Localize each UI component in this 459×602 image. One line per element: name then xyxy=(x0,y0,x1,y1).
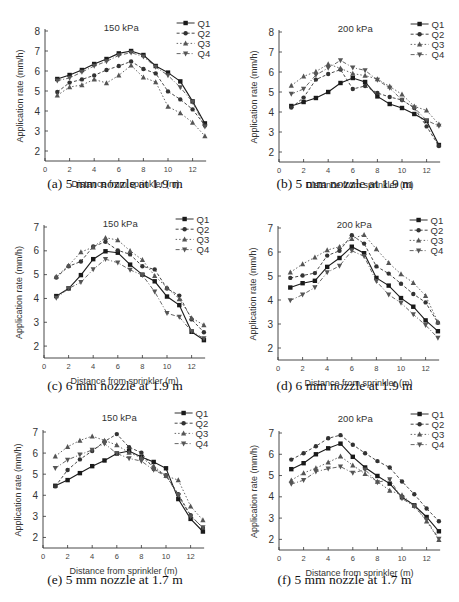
x-tick-label: 0 xyxy=(41,552,45,561)
data-point-marker xyxy=(312,285,317,290)
data-point-marker xyxy=(91,267,96,272)
data-point-marker xyxy=(153,279,157,283)
data-point-marker xyxy=(314,77,318,81)
data-point-marker xyxy=(375,91,379,95)
data-point-marker xyxy=(129,63,134,68)
y-tick-label: 4 xyxy=(268,107,274,118)
legend-marker-q1 xyxy=(183,21,187,25)
data-point-marker xyxy=(289,467,293,471)
x-tick-label: 2 xyxy=(301,364,305,373)
y-tick-label: 6 xyxy=(32,448,38,459)
data-point-marker xyxy=(325,253,329,257)
data-point-marker xyxy=(314,444,318,448)
data-point-marker xyxy=(103,240,107,244)
data-point-marker xyxy=(399,281,403,285)
data-point-marker xyxy=(363,68,368,73)
data-point-marker xyxy=(128,248,133,253)
y-axis-label: Application rate (mm/h) xyxy=(248,247,258,340)
x-tick-label: 2 xyxy=(302,166,306,175)
data-point-marker xyxy=(102,458,106,462)
data-point-marker xyxy=(116,248,120,252)
line-chart-c: 234567024681012Distance from sprinkler (… xyxy=(0,195,230,380)
data-point-marker xyxy=(411,292,415,296)
x-tick-label: 4 xyxy=(92,165,96,174)
y-tick-label: 3 xyxy=(33,317,39,328)
series-q1 xyxy=(53,449,205,534)
data-point-marker xyxy=(139,450,143,454)
data-point-marker xyxy=(67,84,72,89)
data-point-marker xyxy=(350,463,355,468)
y-axis-label: Application rate (mm/h) xyxy=(14,246,24,339)
y-axis-label: Application rate (mm/h) xyxy=(15,49,25,142)
data-point-marker xyxy=(301,95,305,99)
data-point-marker xyxy=(166,89,170,93)
data-point-marker xyxy=(90,433,95,438)
x-tick-label: 4 xyxy=(326,554,330,563)
data-point-marker xyxy=(55,93,60,98)
series-q2 xyxy=(53,432,205,530)
data-point-marker xyxy=(436,329,440,333)
data-point-marker xyxy=(386,260,391,265)
data-point-marker xyxy=(435,336,440,341)
data-point-marker xyxy=(127,445,131,449)
series-q2 xyxy=(54,240,206,335)
x-tick-label: 10 xyxy=(397,364,405,373)
y-tick-label: 2 xyxy=(34,146,40,157)
data-point-marker xyxy=(127,456,132,461)
y-tick-label: 7 xyxy=(32,427,38,438)
data-point-marker xyxy=(177,303,181,307)
data-point-marker xyxy=(104,68,108,72)
data-point-marker xyxy=(178,110,183,115)
data-point-marker xyxy=(351,443,355,447)
x-tick-label: 8 xyxy=(375,554,379,563)
data-point-marker xyxy=(313,470,318,475)
data-point-marker xyxy=(178,97,182,101)
data-point-marker xyxy=(188,503,193,508)
x-tick-label: 6 xyxy=(116,362,120,371)
data-point-marker xyxy=(437,144,441,148)
data-point-marker xyxy=(326,66,331,71)
data-point-marker xyxy=(139,459,144,464)
data-point-marker xyxy=(411,305,415,309)
data-point-marker xyxy=(92,77,97,82)
legend-marker-q1 xyxy=(417,22,421,26)
data-point-marker xyxy=(400,106,404,110)
data-point-marker xyxy=(79,82,84,87)
x-tick-label: 4 xyxy=(326,166,330,175)
data-point-marker xyxy=(350,65,355,70)
data-point-marker xyxy=(363,80,367,84)
data-point-marker xyxy=(141,67,145,71)
legend-label-q4: Q4 xyxy=(197,244,210,255)
y-tick-label: 5 xyxy=(268,87,274,98)
data-point-marker xyxy=(400,479,404,483)
chart-panel-f: 234567024681012Distance from sprinkler (… xyxy=(230,400,459,602)
data-point-marker xyxy=(349,249,354,254)
legend-marker-q2 xyxy=(182,227,186,231)
x-tick-label: 6 xyxy=(350,364,354,373)
x-tick-label: 4 xyxy=(90,552,94,561)
y-tick-label: 7 xyxy=(268,428,274,439)
data-point-marker xyxy=(337,256,341,260)
data-point-marker xyxy=(152,290,157,295)
legend-marker-q2 xyxy=(181,421,185,425)
data-point-marker xyxy=(300,273,304,277)
data-point-marker xyxy=(80,77,84,81)
y-tick-label: 2 xyxy=(32,532,38,543)
data-point-marker xyxy=(301,100,305,104)
data-point-marker xyxy=(178,85,183,90)
legend-marker-q2 xyxy=(417,32,421,36)
y-tick-label: 6 xyxy=(34,66,40,77)
data-point-marker xyxy=(363,451,367,455)
data-point-marker xyxy=(326,446,330,450)
legend: Q1Q2Q3Q4 xyxy=(411,409,445,451)
data-point-marker xyxy=(325,265,329,269)
data-point-marker xyxy=(78,471,82,475)
data-point-marker xyxy=(190,120,195,125)
line-chart-a: 2345678024681012Distance from sprinkler … xyxy=(0,0,230,178)
data-point-marker xyxy=(165,294,169,298)
chart-title: 150 kPa xyxy=(103,218,139,229)
x-tick-label: 6 xyxy=(351,554,355,563)
data-point-marker xyxy=(117,64,121,68)
data-point-marker xyxy=(288,276,292,280)
data-point-marker xyxy=(92,64,97,69)
